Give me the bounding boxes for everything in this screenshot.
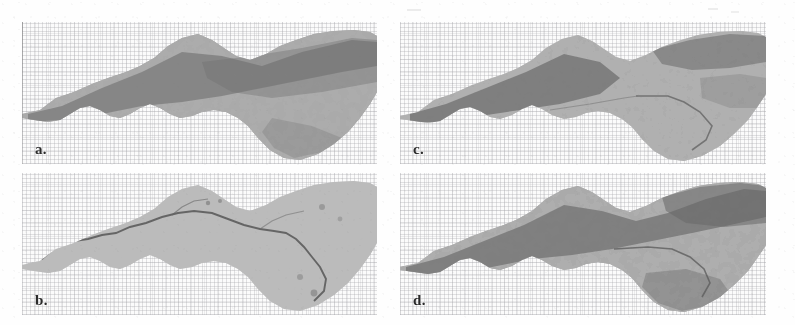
panel-b-label: b. [35,292,48,309]
panel-a: a. [22,22,377,164]
panel-d-basin-map [400,173,766,315]
panel-c-basin-map [400,22,766,164]
panel-a-left-rule [22,22,23,164]
panel-a-label: a. [35,141,47,158]
panel-d-label: d. [413,292,426,309]
figure-root: a. [0,0,795,325]
panel-b-basin-map [22,173,377,315]
panel-a-basin-map [22,22,377,164]
scan-artifact-mark [708,8,718,10]
scan-artifact-mark [731,11,739,13]
panel-d: d. [400,173,766,315]
panel-c-label: c. [413,141,424,158]
panel-c: c. [400,22,766,164]
scan-artifact-mark [407,9,421,11]
panel-b: b. [22,173,377,315]
